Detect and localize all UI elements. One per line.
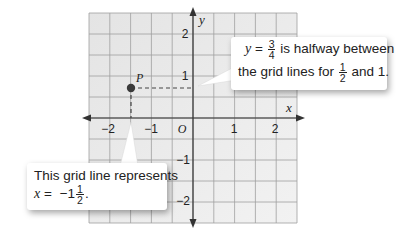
right-callout-text2: the grid lines for	[238, 64, 334, 79]
var-y: y	[245, 41, 251, 56]
equals: =	[255, 41, 263, 56]
y-tick-1: 1	[182, 69, 189, 83]
left-callout-line2: x = −112.	[34, 184, 167, 205]
y-axis-label: y	[197, 12, 205, 27]
y-axis-down-arrow-icon	[190, 219, 197, 228]
y-tick-neg2: −2	[176, 194, 190, 208]
var-x: x	[34, 186, 40, 201]
x-axis-label: x	[285, 100, 292, 115]
x-axis-left-arrow-icon	[82, 115, 91, 122]
right-callout-line2: the grid lines for 12 and 1.	[231, 62, 387, 83]
right-callout-line1: y = 34 is halfway between	[231, 39, 387, 60]
right-callout-text1: is halfway between	[280, 41, 394, 56]
fraction-one-half: 12	[76, 184, 84, 205]
whole-part: −1	[60, 186, 75, 201]
period: .	[85, 186, 89, 201]
fraction-three-quarters: 34	[268, 39, 276, 60]
y-tick-neg1: −1	[176, 153, 190, 167]
equals: =	[44, 186, 52, 201]
right-callout-text3: and 1.	[351, 64, 389, 79]
left-callout: This grid line represents x = −112.	[27, 163, 167, 210]
x-tick-2: 2	[272, 122, 279, 136]
x-tick-1: 1	[231, 122, 238, 136]
x-tick-neg2: −2	[101, 122, 115, 136]
y-tick-2: 2	[182, 27, 189, 41]
y-axis-up-arrow-icon	[190, 7, 197, 16]
point-p-label: P	[135, 71, 144, 85]
point-p	[127, 84, 135, 92]
right-callout: y = 34 is halfway between the grid lines…	[231, 37, 387, 90]
origin-label: O	[178, 122, 187, 136]
left-callout-line1: This grid line represents	[34, 166, 167, 186]
x-axis-right-arrow-icon	[296, 115, 305, 122]
fraction-one-half: 12	[339, 62, 347, 83]
x-tick-neg1: −1	[144, 122, 158, 136]
